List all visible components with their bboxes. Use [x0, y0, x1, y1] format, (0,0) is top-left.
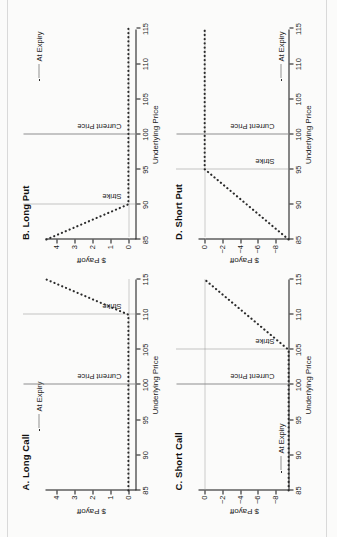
plot-area-b: 01234859095100105110115$ PayoffUnderlyin… — [46, 29, 137, 240]
panel-long-put: B. Long Put At Expiry 012348590951001051… — [20, 25, 167, 266]
x-tick-label: 110 — [294, 58, 303, 70]
panel-title-b: B. Long Put — [20, 185, 31, 239]
x-tick-label: 110 — [294, 308, 303, 320]
x-tick-label: 115 — [141, 273, 150, 285]
y-tick — [56, 240, 57, 244]
panel-short-put: D. Short Put At Expiry 0−2−4−6−885909510… — [173, 25, 320, 266]
y-tick-label: −4 — [236, 245, 245, 254]
y-axis-label: $ Payoff — [229, 507, 258, 516]
y-tick-label: 0 — [200, 495, 209, 499]
x-tick-label: 90 — [141, 200, 150, 208]
payoff-curve — [46, 29, 137, 240]
figure-canvas: A. Long Call At Expiry 01234859095100105… — [14, 11, 324, 526]
x-tick-label: 90 — [294, 451, 303, 459]
legend-dash-icon — [39, 414, 40, 430]
payoff-curve — [199, 279, 290, 490]
x-tick-label: 105 — [141, 343, 150, 356]
y-tick-label: 4 — [52, 495, 61, 499]
y-tick — [128, 240, 129, 244]
plot-area-a: 01234859095100105110115$ PayoffUnderlyin… — [46, 280, 137, 491]
panel-title-c: C. Short Call — [173, 432, 184, 490]
x-tick-label: 100 — [141, 378, 150, 391]
y-tick-label: 2 — [88, 495, 97, 499]
y-tick — [275, 490, 276, 494]
payoff-curve — [46, 279, 137, 490]
y-tick — [92, 240, 93, 244]
y-tick — [92, 490, 93, 494]
legend-label-b: At Expiry — [35, 31, 44, 61]
x-tick-label: 105 — [294, 93, 303, 106]
payoff-path — [205, 29, 289, 240]
y-tick — [222, 240, 223, 244]
y-axis-label: $ Payoff — [229, 256, 258, 265]
y-tick-label: 3 — [70, 245, 79, 249]
plot-area-d: 0−2−4−6−8859095100105110115$ PayoffUnder… — [199, 29, 290, 240]
payoff-path — [205, 279, 289, 490]
x-axis-label: Underlying Price — [151, 105, 160, 164]
y-tick-label: 0 — [124, 245, 133, 249]
x-tick-label: 110 — [141, 308, 150, 320]
y-tick — [275, 240, 276, 244]
y-tick — [110, 490, 111, 494]
panel-title-a: A. Long Call — [20, 433, 31, 490]
y-tick-label: 0 — [124, 495, 133, 499]
y-tick-label: 0 — [200, 245, 209, 249]
plot-area-c: 0−2−4−6−8859095100105110115$ PayoffUnder… — [199, 280, 290, 491]
y-tick — [205, 240, 206, 244]
legend-dash-icon — [39, 64, 40, 80]
panel-long-call: A. Long Call At Expiry 01234859095100105… — [20, 276, 167, 517]
y-axis-label: $ Payoff — [76, 507, 105, 516]
legend-a: At Expiry — [35, 381, 44, 430]
x-tick-label: 85 — [141, 235, 150, 243]
y-tick-label: −8 — [271, 495, 280, 504]
x-axis-label: Underlying Price — [151, 355, 160, 414]
y-tick — [258, 490, 259, 494]
x-tick-label: 85 — [294, 235, 303, 243]
y-tick-label: −6 — [253, 495, 262, 504]
y-tick-label: 4 — [52, 245, 61, 249]
y-axis-label: $ Payoff — [76, 256, 105, 265]
panel-title-d: D. Short Put — [173, 183, 184, 239]
x-tick-label: 95 — [141, 165, 150, 173]
y-tick-label: −8 — [271, 245, 280, 254]
y-tick — [240, 240, 241, 244]
y-tick-label: 2 — [88, 245, 97, 249]
y-tick-label: −4 — [236, 495, 245, 504]
x-tick-label: 95 — [294, 416, 303, 424]
y-tick-label: 3 — [70, 495, 79, 499]
payoff-path — [46, 279, 128, 490]
x-tick-label: 95 — [294, 165, 303, 173]
y-tick-label: −6 — [253, 245, 262, 254]
y-tick-label: 1 — [106, 495, 115, 499]
y-tick-label: −2 — [218, 495, 227, 504]
x-tick-label: 95 — [141, 416, 150, 424]
x-tick-label: 90 — [141, 451, 150, 459]
y-tick — [205, 490, 206, 494]
y-tick — [222, 490, 223, 494]
y-tick — [74, 490, 75, 494]
y-tick — [56, 490, 57, 494]
x-tick-label: 85 — [294, 486, 303, 494]
legend-label-a: At Expiry — [35, 381, 44, 411]
x-tick-label: 100 — [294, 128, 303, 141]
legend-b: At Expiry — [35, 31, 44, 80]
y-tick-label: −2 — [218, 245, 227, 254]
x-axis-label: Underlying Price — [304, 355, 313, 414]
x-tick-label: 115 — [294, 273, 303, 285]
y-tick — [240, 490, 241, 494]
y-tick — [110, 240, 111, 244]
payoff-path — [46, 29, 128, 240]
scanned-page: A. Long Call At Expiry 01234859095100105… — [0, 0, 337, 537]
panel-grid: A. Long Call At Expiry 01234859095100105… — [14, 11, 324, 526]
x-tick-label: 115 — [294, 23, 303, 35]
x-tick-label: 90 — [294, 200, 303, 208]
y-tick-label: 1 — [106, 245, 115, 249]
x-tick-label: 105 — [141, 93, 150, 106]
x-tick-label: 100 — [294, 378, 303, 391]
x-tick-label: 100 — [141, 128, 150, 141]
x-tick-label: 110 — [141, 58, 150, 70]
x-tick-label: 105 — [294, 343, 303, 356]
y-tick — [258, 240, 259, 244]
x-axis-label: Underlying Price — [304, 105, 313, 164]
panel-short-call: C. Short Call At Expiry 0−2−4−6−88590951… — [173, 276, 320, 517]
